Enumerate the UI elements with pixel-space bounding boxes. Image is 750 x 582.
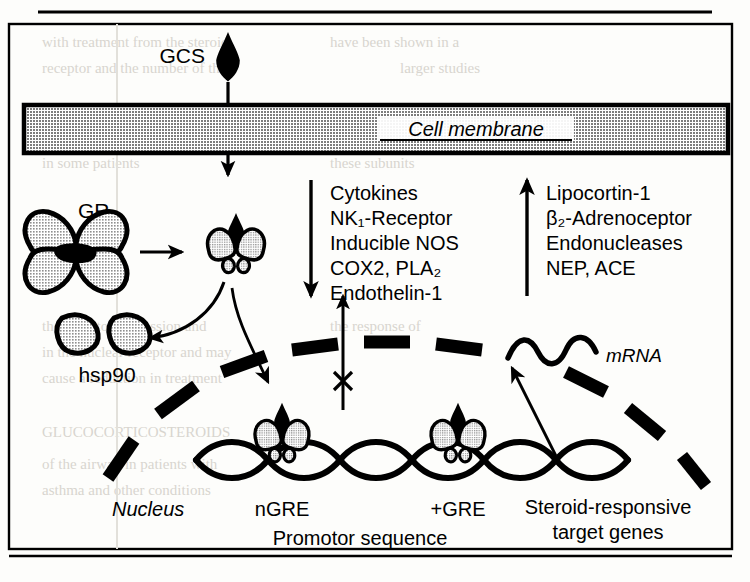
mrna-label: mRNA [606, 345, 662, 366]
downregulated-item: Inducible NOS [330, 232, 459, 254]
downregulated-item: Endothelin-1 [330, 282, 442, 304]
diamond-icon [216, 32, 240, 82]
inactive-gr-complex [25, 211, 127, 292]
downregulated-item: COX2, PLA₂ [330, 257, 441, 279]
hsp90-subunit-icon [109, 315, 150, 353]
downregulated-item: NK₁-Receptor [330, 207, 453, 229]
ngre-label: nGRE [255, 498, 309, 520]
gcs-label: GCS [159, 44, 205, 67]
downregulated-gene-list: Cytokines NK₁-Receptor Inducible NOS COX… [330, 182, 459, 304]
mrna-squiggle-icon [508, 337, 596, 363]
promotor-sequence-label: Promotor sequence [273, 527, 448, 549]
pgre-label: +GRE [430, 498, 485, 520]
activated-gr-receptor [208, 213, 265, 273]
nucleus-label: Nucleus [112, 498, 184, 520]
upregulated-gene-list: Lipocortin-1 β₂-Adrenoceptor Endonucleas… [546, 182, 692, 279]
upregulated-item: β₂-Adrenoceptor [546, 207, 692, 229]
target-genes-label-line2: target genes [552, 521, 663, 543]
cell-membrane-band [24, 105, 728, 153]
downregulated-item: Cytokines [330, 182, 418, 204]
diagram-canvas: GCS Cell membrane GR [0, 0, 750, 582]
hsp90-label: hsp90 [78, 363, 135, 386]
hsp90-subunit-icon [57, 315, 98, 353]
target-genes-label-line1: Steroid-responsive [525, 496, 692, 518]
upregulated-item: Endonucleases [546, 232, 683, 254]
hsp90-release-arrow [150, 282, 224, 338]
glucocorticoid-signalling-figure: with treatment from the steroid have bee… [0, 0, 750, 582]
upregulated-item: NEP, ACE [546, 257, 636, 279]
cell-membrane-label: Cell membrane [408, 118, 544, 140]
upregulated-item: Lipocortin-1 [546, 182, 651, 204]
